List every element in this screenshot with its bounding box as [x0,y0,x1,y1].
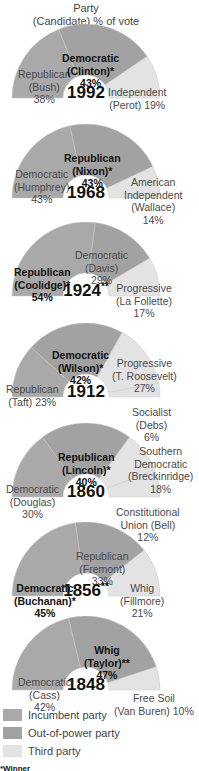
year-label: 1924** [56,281,116,301]
legend: Incumbent party Out-of-power party Third… [3,706,120,760]
donut-chart-1856: Democratic(Buchanan)*45%Republican(Fremo… [0,522,199,622]
year-label: 1848 [56,675,116,695]
legend-item-out-of-power: Out-of-power party [3,724,120,742]
legend-item-incumbent: Incumbent party [3,706,120,724]
year-label: 1968 [56,183,116,203]
slice-label: Whig(Fillmore)21% [120,582,164,620]
legend-swatch-out-of-power [3,727,22,739]
donut-chart-1848: Democratic(Cass)42%Whig(Taylor)**47%Free… [0,616,199,716]
donut-chart-1912: Republican(Taft) 23%Democratic(Wilson)*4… [0,323,199,423]
slice-label: Free Soil(Van Buren) 10% [114,692,194,717]
slice-label: Republican(Taft) 23% [6,383,59,408]
slice-label: Democratic(Douglas)30% [6,483,59,521]
legend-swatch-third [3,745,22,757]
footnote: *Winner [0,764,30,771]
slice-label: SouthernDemocratic(Breckinridge)18% [128,445,193,495]
donut-chart-1860: Democratic(Douglas)30%Republican(Lincoln… [0,423,199,523]
slice-label: Democratic(Wilson)*42% [52,349,109,387]
year-label: 1860 [56,482,116,502]
donut-chart-1924: Republican(Coolidge)*54%Democratic(Davis… [0,222,199,322]
slice-label: AmericanIndependent(Wallace)14% [124,176,182,226]
year-label: 1856** [56,581,116,601]
legend-swatch-incumbent [3,709,22,721]
slice-label: Progressive(T. Roosevelt)27% [112,357,177,395]
slice-label: Progressive(La Follette)17% [116,282,172,320]
year-label: 1992 [56,83,116,103]
slice-label: Independent(Perot) 19% [108,86,166,111]
year-label: 1912 [56,382,116,402]
legend-item-third: Third party [3,742,120,760]
donut-chart-1968: Democratic(Humphrey)43%Republican(Nixon)… [0,124,199,224]
header-line1: Party [0,2,172,15]
donut-chart-1992: Republican(Bush)38%Democratic(Clinton)*4… [0,24,199,124]
